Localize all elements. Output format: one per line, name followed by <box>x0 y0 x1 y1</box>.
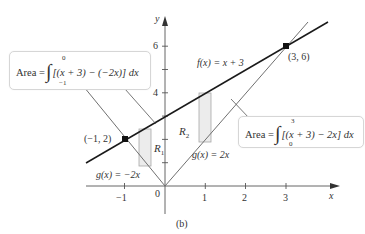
x-tick-label: 2 <box>242 193 247 203</box>
f-label: f(x) = x + 3 <box>197 58 244 68</box>
left-area-formula: Area = ∫ 0 −1 [(x + 3) − (−2x)] dx <box>16 62 139 82</box>
point-neg1-2 <box>122 136 128 142</box>
left-leader-line <box>125 89 156 124</box>
x-axis <box>86 183 334 189</box>
y-tick-label: 6 <box>153 41 158 51</box>
left-area-callout: Area = ∫ 0 −1 [(x + 3) − (−2x)] dx <box>9 51 151 90</box>
x-tick-label: 1 <box>202 193 207 203</box>
r1-rectangle <box>139 129 151 166</box>
upper-limit: 0 <box>62 54 66 62</box>
g-left-label: g(x) = −2x <box>96 170 140 180</box>
point-3-6 <box>283 43 289 49</box>
lower-limit: 0 <box>289 140 293 148</box>
upper-limit: 3 <box>291 117 295 125</box>
point-label-neg1-2: (−1, 2) <box>84 134 111 144</box>
y-axis-arrow-icon <box>162 16 168 26</box>
region-r1-label: R1 <box>154 143 164 157</box>
x-axis-label: x <box>329 191 333 201</box>
integral-sign-icon: ∫ <box>275 123 280 143</box>
origin-label: 0 <box>155 189 160 199</box>
y-axis-label: y <box>155 14 159 24</box>
g-right-label: g(x) = 2x <box>192 150 229 160</box>
figure-caption: (b) <box>176 219 188 229</box>
x-axis-arrow-icon <box>330 183 340 189</box>
y-tick-label: 4 <box>153 88 158 98</box>
right-area-callout: Area = ∫ 3 0 [(x + 3) − 2x] dx <box>238 116 364 148</box>
x-tick-label: 3 <box>283 193 288 203</box>
region-r2-label: R2 <box>179 126 189 140</box>
right-area-formula: Area = ∫ 3 0 [(x + 3) − 2x] dx <box>245 124 354 144</box>
lower-limit: −1 <box>59 79 66 87</box>
point-label-3-6: (3, 6) <box>288 52 310 62</box>
integral-sign-icon: ∫ <box>46 61 51 81</box>
x-tick-label: −1 <box>116 193 127 203</box>
